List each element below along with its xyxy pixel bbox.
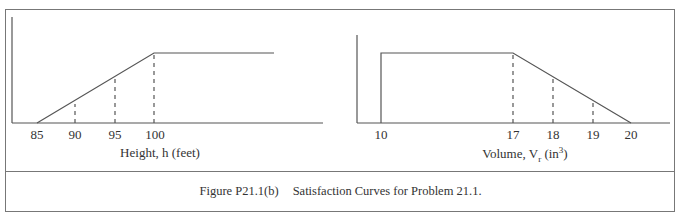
left-x-axis-label: Height, h (feet) — [120, 145, 200, 161]
tick-18: 18 — [547, 127, 560, 143]
tick-20: 20 — [625, 127, 638, 143]
tick-95: 95 — [109, 127, 122, 143]
tick-10: 10 — [375, 127, 388, 143]
figure-caption: Figure P21.1(b)Satisfaction Curves for P… — [0, 184, 681, 199]
tick-17: 17 — [507, 127, 520, 143]
right-chart — [357, 35, 670, 123]
left-curve — [37, 53, 274, 123]
figure-id: Figure P21.1(b) — [199, 184, 278, 198]
left-chart — [12, 17, 323, 123]
right-x-axis-label: Volume, Vr (in3) — [482, 145, 567, 164]
tick-19: 19 — [587, 127, 600, 143]
caption-text: Satisfaction Curves for Problem 21.1. — [293, 184, 482, 198]
tick-85: 85 — [31, 127, 44, 143]
tick-90: 90 — [69, 127, 82, 143]
tick-100: 100 — [145, 127, 165, 143]
